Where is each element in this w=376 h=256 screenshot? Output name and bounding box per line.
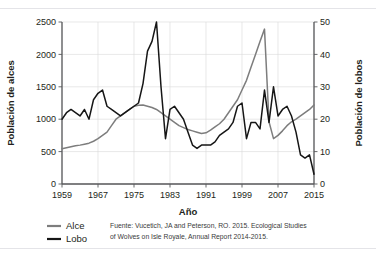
- x-axis-tick-labels: 19591967197519831991199920072015: [52, 190, 324, 200]
- y-tick-label-right: 40: [320, 50, 330, 60]
- y-tick-label-right: 10: [320, 147, 330, 157]
- x-tick-label: 1999: [232, 190, 252, 200]
- source-citation: Fuente: Vucetich, JA and Peterson, RO. 2…: [110, 222, 307, 241]
- y-tick-label-left: 500: [41, 147, 56, 157]
- y-axis-right-tick-labels: 01020304050: [320, 17, 330, 189]
- x-tick-label: 1959: [52, 190, 72, 200]
- x-tick-label: 2007: [268, 190, 288, 200]
- source-citation-line-1: Fuente: Vucetich, JA and Peterson, RO. 2…: [110, 222, 307, 230]
- legend-label-lobo: Lobo: [66, 233, 87, 244]
- x-tick-label: 2015: [304, 190, 324, 200]
- x-tick-label: 1975: [124, 190, 144, 200]
- x-tick-label: 1967: [88, 190, 108, 200]
- top-divider: [0, 8, 376, 9]
- source-citation-line-2: of Wolves on Isle Royale, Annual Report …: [110, 233, 268, 241]
- y-axis-left-tick-labels: 05001000150020002500: [36, 17, 56, 189]
- y-tick-label-right: 50: [320, 17, 330, 27]
- x-tick-label: 1991: [196, 190, 216, 200]
- y-tick-label-left: 2500: [36, 17, 56, 27]
- y-axis-right-title: Población de lobos: [353, 59, 364, 146]
- y-tick-label-left: 2000: [36, 50, 56, 60]
- y-tick-label-left: 0: [51, 179, 56, 189]
- y-axis-left-title: Población de alces: [5, 60, 16, 146]
- x-axis-title: Año: [179, 206, 198, 217]
- tickmarks: [59, 22, 318, 188]
- y-tick-label-left: 1500: [36, 82, 56, 92]
- y-tick-label-right: 0: [320, 179, 325, 189]
- y-tick-label-right: 20: [320, 114, 330, 124]
- legend-label-alce: Alce: [66, 220, 84, 231]
- x-tick-label: 1983: [160, 190, 180, 200]
- chart-legend: Alce Lobo: [47, 220, 87, 244]
- bottom-divider: [0, 248, 376, 249]
- chart-figure: 19591967197519831991199920072015 0500100…: [0, 0, 376, 256]
- population-line-chart: 19591967197519831991199920072015 0500100…: [0, 0, 376, 256]
- y-tick-label-right: 30: [320, 82, 330, 92]
- y-tick-label-left: 1000: [36, 114, 56, 124]
